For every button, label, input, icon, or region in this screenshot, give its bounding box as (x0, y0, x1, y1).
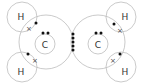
electron-dot (47, 32, 50, 35)
electron-dot (35, 22, 38, 25)
shared-electron-dot (72, 41, 75, 44)
cross-icon: × (117, 27, 123, 35)
hydrogen-bottom-right-label: H (122, 67, 129, 77)
electron-dot (95, 32, 98, 35)
cross-icon: × (26, 25, 32, 33)
electron-dot (113, 23, 116, 26)
dot-cross-diagram: C C H H H H × × × × (0, 0, 144, 83)
hydrogen-top-left-label: H (18, 12, 25, 22)
shared-electron-dot (72, 49, 75, 52)
electron-dot (42, 32, 45, 35)
hydrogen-top-right-label: H (122, 12, 129, 22)
cross-icon: × (32, 57, 38, 65)
electron-dot (100, 32, 103, 35)
electron-dot (119, 53, 122, 56)
shared-electron-dot (72, 33, 75, 36)
carbon-right-label: C (95, 40, 101, 50)
hydrogen-bottom-left-label: H (18, 67, 25, 77)
shared-electron-dot (72, 45, 75, 48)
cross-icon: × (110, 57, 116, 65)
shared-electron-dot (72, 37, 75, 40)
electron-dot (27, 53, 30, 56)
carbon-left-label: C (42, 40, 48, 50)
